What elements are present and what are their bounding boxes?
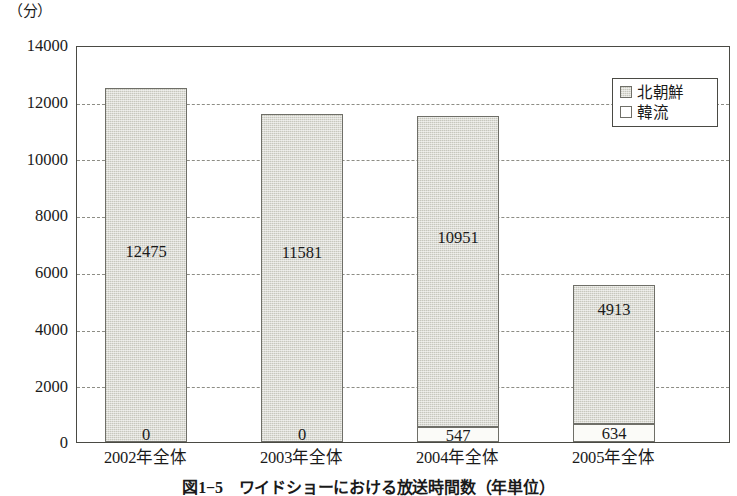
x-tick-2005: 2005年全体 (572, 449, 654, 467)
bar-group-2005[interactable]: 4913 634 (573, 285, 655, 442)
legend-item-north-korea[interactable]: 北朝鮮 (620, 82, 711, 102)
y-tick-10000: 10000 (0, 152, 68, 168)
y-tick-4000: 4000 (0, 322, 68, 338)
x-tick-2004: 2004年全体 (416, 449, 498, 467)
bar-label-hallyu-2004: 547 (417, 428, 499, 445)
y-tick-0: 0 (0, 435, 68, 451)
figure-caption: 図1−5 ワイドショーにおける放送時間数（年単位） (0, 478, 737, 496)
legend-item-hallyu[interactable]: 韓流 (620, 102, 711, 122)
y-tick-8000: 8000 (0, 208, 68, 224)
bar-label-hallyu-2005: 634 (573, 426, 655, 443)
legend-label-north-korea: 北朝鮮 (637, 84, 684, 101)
bar-segment-north-korea-2004[interactable]: 10951 (417, 116, 499, 427)
y-tick-14000: 14000 (0, 38, 68, 54)
figure-container: （分） 14000 12000 10000 8000 6000 4000 200… (0, 0, 737, 496)
bar-segment-north-korea-2005[interactable]: 4913 (573, 285, 655, 424)
x-tick-2002: 2002年全体 (104, 449, 186, 467)
x-tick-2003: 2003年全体 (260, 449, 342, 467)
bar-label-north-korea-2005: 4913 (574, 302, 654, 319)
bar-group-2003[interactable]: 11581 (261, 114, 343, 442)
legend: 北朝鮮 韓流 (612, 78, 718, 127)
bar-group-2002[interactable]: 12475 (105, 88, 187, 442)
legend-swatch-icon-hallyu (620, 106, 632, 118)
y-tick-2000: 2000 (0, 379, 68, 395)
bar-label-hallyu-2002: 0 (105, 427, 187, 444)
bar-label-north-korea-2004: 10951 (418, 230, 498, 247)
bar-label-hallyu-2003: 0 (261, 427, 343, 444)
legend-swatch-icon-north-korea (620, 86, 632, 98)
bar-segment-north-korea-2002[interactable]: 12475 (105, 88, 187, 442)
bar-group-2004[interactable]: 10951 547 (417, 116, 499, 442)
bar-label-north-korea-2003: 11581 (262, 245, 342, 262)
bar-segment-north-korea-2003[interactable]: 11581 (261, 114, 343, 442)
y-axis-tick-labels: 14000 12000 10000 8000 6000 4000 2000 0 (0, 0, 76, 496)
bar-label-north-korea-2002: 12475 (106, 244, 186, 261)
y-tick-12000: 12000 (0, 95, 68, 111)
y-tick-6000: 6000 (0, 265, 68, 281)
legend-label-hallyu: 韓流 (637, 104, 668, 121)
